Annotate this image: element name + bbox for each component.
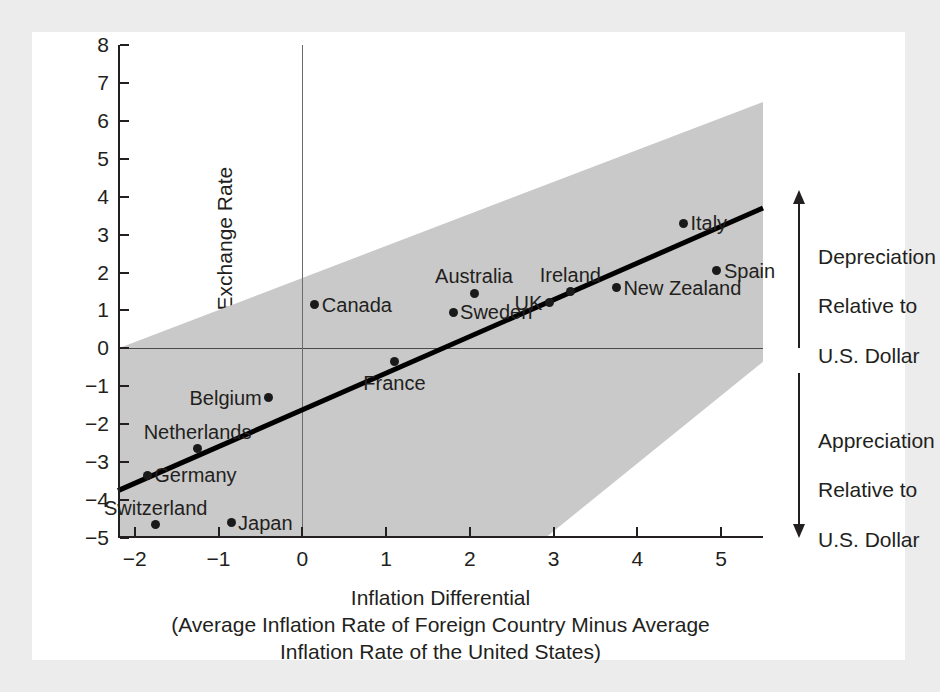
up-arrow-icon xyxy=(789,190,809,350)
x-tick-label: −2 xyxy=(123,547,147,571)
y-tick-label: 5 xyxy=(97,147,109,171)
data-point[interactable] xyxy=(390,357,399,366)
data-point-label: Germany xyxy=(154,464,236,487)
x-tick xyxy=(301,527,303,536)
data-point[interactable] xyxy=(679,219,688,228)
appreciation-note-line1: Appreciation xyxy=(818,429,935,454)
data-point-label: Netherlands xyxy=(144,421,252,444)
figure-card: Percentage Change in Exchange Rate −5−4−… xyxy=(32,32,905,660)
depreciation-note-line2: Relative to xyxy=(818,294,936,319)
down-arrow-icon xyxy=(789,373,809,538)
data-point[interactable] xyxy=(227,518,236,527)
x-tick-label: −1 xyxy=(207,547,231,571)
x-tick xyxy=(134,527,136,536)
y-tick-label: 8 xyxy=(97,33,109,57)
y-tick xyxy=(120,385,129,387)
x-tick xyxy=(218,527,220,536)
x-tick-label: 5 xyxy=(715,547,727,571)
x-tick xyxy=(636,527,638,536)
x-tick-label: 3 xyxy=(548,547,560,571)
data-point-label: UK xyxy=(515,291,543,314)
y-tick xyxy=(120,461,129,463)
data-point[interactable] xyxy=(566,287,575,296)
x-axis-label-line1: Inflation Differential xyxy=(118,585,763,612)
y-tick-label: −3 xyxy=(85,450,109,474)
y-tick xyxy=(120,234,129,236)
appreciation-note-line2: Relative to xyxy=(818,478,935,503)
x-tick xyxy=(469,527,471,536)
y-tick-label: 1 xyxy=(97,298,109,322)
y-tick xyxy=(120,120,129,122)
data-point-label: Ireland xyxy=(540,264,601,287)
y-tick xyxy=(120,196,129,198)
x-axis-label-line3: Inflation Rate of the United States) xyxy=(118,639,763,666)
y-tick-label: 4 xyxy=(97,185,109,209)
data-point-label: Belgium xyxy=(190,386,262,409)
data-point-label: Switzerland xyxy=(104,497,207,520)
x-tick xyxy=(385,527,387,536)
x-tick-label: 0 xyxy=(296,547,308,571)
y-tick xyxy=(120,537,129,539)
y-tick xyxy=(120,272,129,274)
y-tick-label: −1 xyxy=(85,374,109,398)
x-axis xyxy=(118,536,763,538)
y-tick xyxy=(120,44,129,46)
depreciation-note: Depreciation Relative to U.S. Dollar xyxy=(818,220,936,393)
y-tick-label: −5 xyxy=(85,526,109,550)
appreciation-note: Appreciation Relative to U.S. Dollar xyxy=(818,404,935,577)
data-point[interactable] xyxy=(449,308,458,317)
y-tick-label: −2 xyxy=(85,412,109,436)
y-tick xyxy=(120,158,129,160)
x-axis-label-line2: (Average Inflation Rate of Foreign Count… xyxy=(118,612,763,639)
y-tick xyxy=(120,82,129,84)
x-axis-label: Inflation Differential (Average Inflatio… xyxy=(118,585,763,666)
data-point-label: Spain xyxy=(724,259,775,282)
appreciation-note-line3: U.S. Dollar xyxy=(818,528,935,553)
y-tick-label: 7 xyxy=(97,71,109,95)
y-tick xyxy=(120,347,129,349)
y-tick-label: 0 xyxy=(97,336,109,360)
x-tick-label: 1 xyxy=(380,547,392,571)
data-point-label: Japan xyxy=(238,511,293,534)
x-tick-label: 2 xyxy=(464,547,476,571)
depreciation-note-line3: U.S. Dollar xyxy=(818,344,936,369)
y-tick-label: 3 xyxy=(97,223,109,247)
data-point-label: Canada xyxy=(322,293,392,316)
x-tick xyxy=(720,527,722,536)
data-point[interactable] xyxy=(143,471,152,480)
y-tick-label: 2 xyxy=(97,261,109,285)
data-point[interactable] xyxy=(470,289,479,298)
data-point-label: Australia xyxy=(435,265,513,288)
data-point-label: Italy xyxy=(690,212,727,235)
x-tick-label: 4 xyxy=(632,547,644,571)
y-tick xyxy=(120,423,129,425)
x-tick xyxy=(553,527,555,536)
data-point-label: France xyxy=(363,372,425,395)
y-tick-label: 6 xyxy=(97,109,109,133)
plot-area: −5−4−3−2−1012345678 −2−1012345 GermanySw… xyxy=(118,45,763,538)
depreciation-note-line1: Depreciation xyxy=(818,245,936,270)
y-tick xyxy=(120,309,129,311)
